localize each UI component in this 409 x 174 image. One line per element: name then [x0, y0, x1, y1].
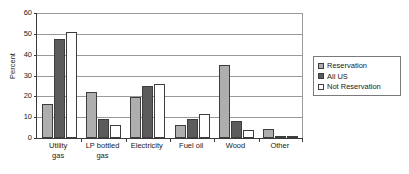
x-axis-label-line: Electricity	[125, 141, 169, 151]
bar[interactable]	[287, 136, 298, 138]
x-axis-tick-label: Other	[258, 141, 302, 171]
y-axis-tick-label: 60	[12, 9, 32, 17]
y-axis-tick-label: 20	[12, 92, 32, 100]
bar[interactable]	[66, 32, 77, 138]
chart-legend: ReservationAll USNot Reservation	[313, 56, 401, 96]
y-axis-tick-label: 50	[12, 30, 32, 38]
y-axis-tick-label: 40	[12, 51, 32, 59]
y-axis-tick-labels: 6050403020100	[12, 0, 32, 174]
bar[interactable]	[263, 129, 274, 138]
bar[interactable]	[219, 65, 230, 138]
legend-swatch-icon	[318, 73, 324, 79]
x-axis-label-line: Utility	[36, 141, 80, 151]
bar[interactable]	[187, 119, 198, 138]
legend-item[interactable]: All US	[318, 71, 397, 81]
bar-group	[126, 13, 170, 138]
plot-area	[36, 13, 303, 139]
x-axis-tick-labels: UtilitygasLP bottledgasElectricityFuel o…	[36, 141, 302, 171]
bar[interactable]	[54, 39, 65, 138]
legend-item[interactable]: Not Reservation	[318, 82, 397, 92]
bar[interactable]	[42, 104, 53, 138]
y-axis-tick-label: 10	[12, 113, 32, 121]
legend-swatch-icon	[318, 84, 324, 90]
legend-label: Reservation	[327, 61, 367, 70]
x-axis-tick-label: LP bottledgas	[80, 141, 124, 171]
x-axis-label-line: gas	[36, 151, 80, 161]
x-axis-tick-label: Wood	[213, 141, 257, 171]
x-axis-label-line: Wood	[213, 141, 257, 151]
legend-label: Not Reservation	[327, 82, 381, 91]
x-axis-tick-label: Electricity	[125, 141, 169, 171]
legend-item[interactable]: Reservation	[318, 61, 397, 71]
bar[interactable]	[86, 92, 97, 138]
bar-groups	[37, 13, 303, 138]
legend-label: All US	[327, 72, 348, 81]
bar[interactable]	[199, 114, 210, 138]
bar[interactable]	[110, 125, 121, 138]
bar-chart: Percent 6050403020100 UtilitygasLP bottl…	[0, 0, 409, 174]
x-axis-label-line: LP bottled	[80, 141, 124, 151]
x-axis-tick-label: Fuel oil	[169, 141, 213, 171]
bar[interactable]	[154, 84, 165, 138]
x-axis-label-line: gas	[80, 151, 124, 161]
bar-group	[170, 13, 214, 138]
chart-title-clipped	[0, 0, 409, 5]
legend-swatch-icon	[318, 63, 324, 69]
x-axis-label-line: Fuel oil	[169, 141, 213, 151]
bar[interactable]	[175, 125, 186, 138]
bar[interactable]	[98, 119, 109, 138]
y-axis-tick-label: 30	[12, 72, 32, 80]
x-axis-label-line: Other	[258, 141, 302, 151]
x-axis-tick-label: Utilitygas	[36, 141, 80, 171]
bar-group	[259, 13, 303, 138]
bar-group	[214, 13, 258, 138]
x-axis-tick-mark	[302, 138, 303, 142]
bar[interactable]	[231, 121, 242, 139]
bar[interactable]	[142, 86, 153, 138]
y-axis-tick-mark	[34, 138, 37, 139]
bar[interactable]	[275, 136, 286, 138]
bar-group	[81, 13, 125, 138]
y-axis-tick-label: 0	[12, 134, 32, 142]
bar-group	[37, 13, 81, 138]
bar[interactable]	[243, 130, 254, 138]
bar[interactable]	[130, 97, 141, 138]
